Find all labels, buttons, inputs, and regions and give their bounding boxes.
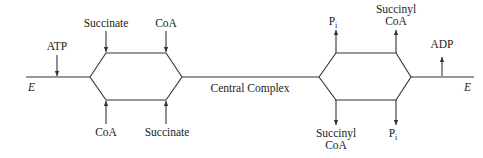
succinyl-coa-top-label-line2: CoA	[385, 15, 407, 27]
enzyme-right-label: E	[463, 81, 471, 93]
coa-top-label: CoA	[155, 17, 177, 29]
atp-label: ATP	[47, 40, 67, 52]
pi-bottom-label: Pi	[389, 127, 398, 142]
coa-bottom-label: CoA	[95, 126, 117, 138]
left-hexagon	[90, 53, 182, 100]
right-hexagon	[319, 53, 411, 100]
central-complex-label: Central Complex	[211, 82, 290, 95]
enzyme-left-label: E	[27, 81, 35, 93]
succinate-bottom-label: Succinate	[145, 126, 190, 138]
succinate-top-label: Succinate	[84, 17, 129, 29]
reaction-diagram: E E ATP ADP Succinate CoA CoA Succinate …	[0, 0, 483, 158]
succinyl-coa-bottom-label-line2: CoA	[325, 139, 347, 151]
adp-label: ADP	[430, 38, 453, 50]
pi-top-label: Pi	[329, 15, 338, 30]
